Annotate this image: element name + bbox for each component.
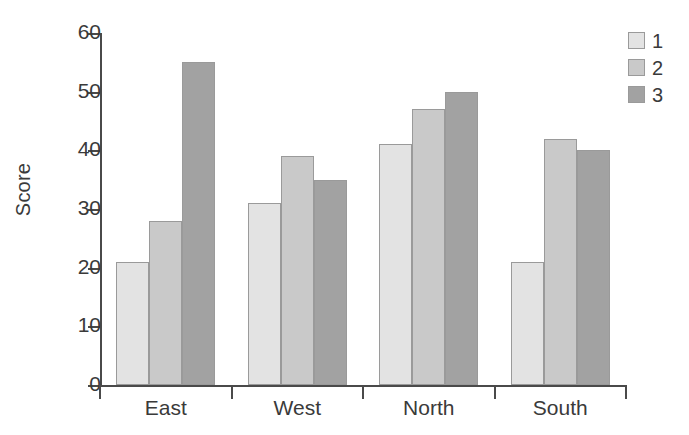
legend-label: 1 — [652, 31, 663, 51]
bar-south-series-2 — [544, 139, 577, 385]
legend-item-2[interactable]: 2 — [628, 54, 663, 81]
x-axis-label-east: East — [100, 396, 232, 420]
legend-swatch-icon — [628, 86, 645, 103]
y-axis-tick-label: 10 — [55, 313, 101, 337]
y-axis-tick-label: 50 — [55, 79, 101, 103]
y-axis-title: Score — [12, 145, 35, 235]
x-axis-label-west: West — [232, 396, 364, 420]
bar-chart: Score 0102030405060 EastWestNorthSouth 1… — [0, 0, 689, 435]
bar-west-series-1 — [248, 203, 281, 385]
y-axis-tick-label: 0 — [55, 372, 101, 396]
legend-item-3[interactable]: 3 — [628, 81, 663, 108]
y-axis-tick-label: 30 — [55, 196, 101, 220]
y-axis-tick-label: 20 — [55, 255, 101, 279]
bar-west-series-3 — [314, 180, 347, 385]
bar-south-series-3 — [577, 150, 610, 385]
legend-label: 3 — [652, 85, 663, 105]
bar-north-series-1 — [379, 144, 412, 385]
legend-label: 2 — [652, 58, 663, 78]
bar-north-series-3 — [445, 92, 478, 385]
x-axis-label-south: South — [495, 396, 627, 420]
legend-swatch-icon — [628, 59, 645, 76]
bar-west-series-2 — [281, 156, 314, 385]
bar-north-series-2 — [412, 109, 445, 385]
x-axis-label-north: North — [363, 396, 495, 420]
bar-south-series-1 — [511, 262, 544, 385]
y-axis-tick-label: 40 — [55, 137, 101, 161]
y-axis-tick-label: 60 — [55, 20, 101, 44]
bar-east-series-2 — [149, 221, 182, 385]
bar-east-series-1 — [116, 262, 149, 385]
legend-swatch-icon — [628, 32, 645, 49]
legend: 123 — [628, 27, 663, 108]
bar-east-series-3 — [182, 62, 215, 385]
legend-item-1[interactable]: 1 — [628, 27, 663, 54]
